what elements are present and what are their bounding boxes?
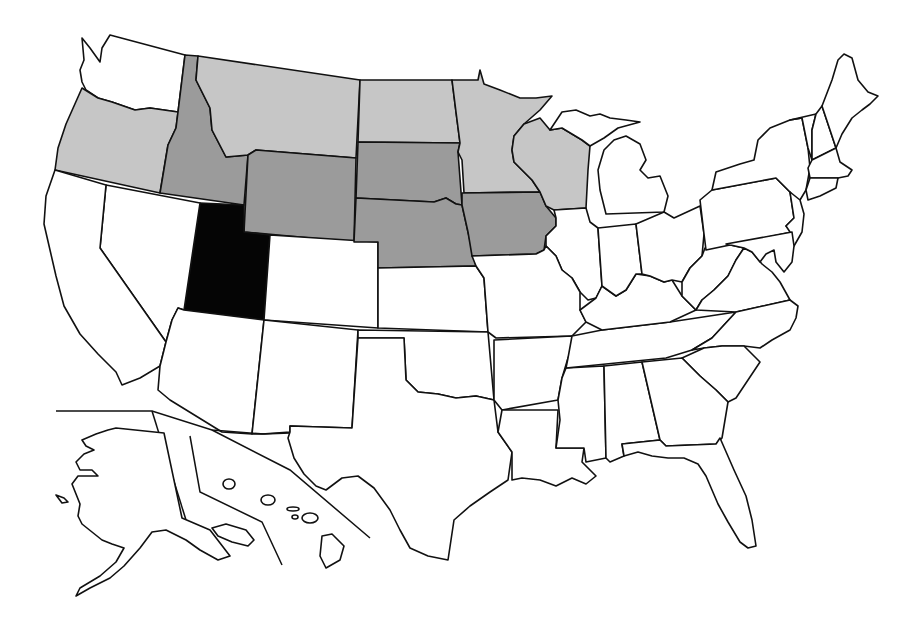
state-ak[interactable] — [72, 428, 230, 596]
state-ks[interactable] — [378, 266, 488, 332]
state-fl[interactable] — [622, 438, 756, 548]
state-nd[interactable] — [358, 80, 460, 143]
state-nm[interactable] — [252, 320, 358, 434]
state-hi[interactable] — [223, 479, 344, 568]
state-sd[interactable] — [356, 142, 462, 205]
us-state-map — [0, 0, 924, 630]
state-ak-island-west — [56, 495, 68, 503]
state-iu[interactable] — [462, 192, 556, 256]
state-co[interactable] — [264, 235, 378, 328]
state-ms[interactable] — [556, 366, 606, 462]
state-ct[interactable] — [806, 178, 838, 200]
state-wy[interactable] — [244, 150, 356, 242]
state-mt[interactable] — [196, 56, 360, 158]
state-az[interactable] — [158, 308, 264, 434]
